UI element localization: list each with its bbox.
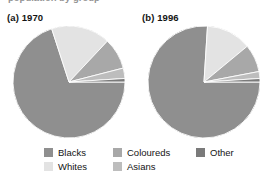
legend-label-blacks: Blacks	[58, 148, 86, 158]
pie-chart-1996-svg	[146, 24, 262, 140]
pie-chart-1970-svg	[11, 24, 127, 140]
legend-label-coloureds: Coloureds	[127, 148, 170, 158]
legend-item-whites: Whites	[44, 162, 87, 172]
legend-label-whites: Whites	[58, 162, 87, 172]
panel-label-b: (b) 1996	[142, 12, 179, 23]
legend-swatch-other	[196, 148, 205, 157]
clipped-caption-strip: population by group	[0, 0, 273, 7]
legend-swatch-whites	[44, 162, 53, 171]
legend-label-other: Other	[210, 148, 234, 158]
legend-item-coloureds: Coloureds	[113, 148, 170, 158]
legend-swatch-asians	[113, 162, 122, 171]
clipped-caption-text: population by group	[8, 0, 100, 3]
legend-swatch-coloureds	[113, 148, 122, 157]
legend-label-asians: Asians	[127, 162, 156, 172]
pie-chart-1970	[11, 24, 127, 140]
legend: Blacks Whites Coloureds Asians Other	[0, 146, 273, 184]
legend-swatch-blacks	[44, 148, 53, 157]
legend-item-other: Other	[196, 148, 234, 158]
figure-root: population by group (a) 1970 (b) 1996 Bl…	[0, 0, 273, 184]
panel-label-a: (a) 1970	[7, 12, 43, 23]
legend-item-asians: Asians	[113, 162, 156, 172]
pie-chart-1996	[146, 24, 262, 140]
legend-item-blacks: Blacks	[44, 148, 86, 158]
